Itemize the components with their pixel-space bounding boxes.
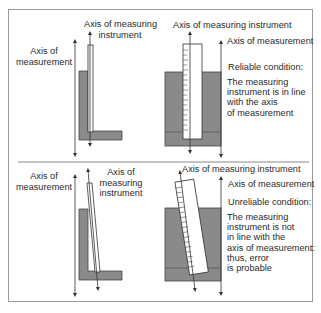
reliable-condition-text: The measuring instrument is in line with… [227,77,306,118]
text-line: thus, error [227,253,315,263]
label-line: instrument [84,30,156,41]
text-line: with the axis [227,97,306,107]
reliable-condition-title: Reliable condition: [228,62,303,72]
label-line: Axis of measuring [84,19,156,30]
top-right-axis-measurement-label: Axis of measurement [227,36,313,47]
bottom-right-figure [165,172,221,294]
l-square-block [79,209,122,280]
text-line: instrument is in line [227,87,306,97]
label-line: measurement [14,57,74,68]
bottom-right-axis-measurement-label: Axis of measurement [228,179,314,190]
label-line: instrument [96,188,146,199]
text-line: The measuring [227,212,315,222]
text-line: in line with the [227,232,315,242]
text-line: The measuring [227,77,306,87]
label-line: measuring [96,178,146,189]
top-right-axis-instrument-label: Axis of measuring instrument [173,20,291,31]
label-line: Axis of [14,171,74,182]
unreliable-condition-text: The measuring instrument is not in line … [227,212,315,273]
label-line: Axis of [96,167,146,178]
label-line: measurement [14,182,74,193]
instrument-bar [88,45,93,132]
bottom-left-axis-measurement-label: Axis of measurement [14,171,74,192]
unreliable-condition-title: Unreliable condition: [228,197,311,207]
text-line: axis of measurement: [227,243,315,253]
text-line: instrument is not [227,222,315,232]
label-line: Axis of [14,46,74,57]
top-left-axis-instrument-label: Axis of measuring instrument [84,19,156,40]
top-right-figure [165,33,221,156]
top-left-figure [75,33,122,155]
bottom-left-axis-instrument-label: Axis of measuring instrument [96,167,146,199]
text-line: of measurement [227,108,306,118]
l-square-block [79,71,122,140]
top-left-axis-measurement-label: Axis of measurement [14,46,74,67]
bottom-right-axis-instrument-label: Axis of measuring instrument [182,164,300,175]
text-line: is probable [227,263,315,273]
